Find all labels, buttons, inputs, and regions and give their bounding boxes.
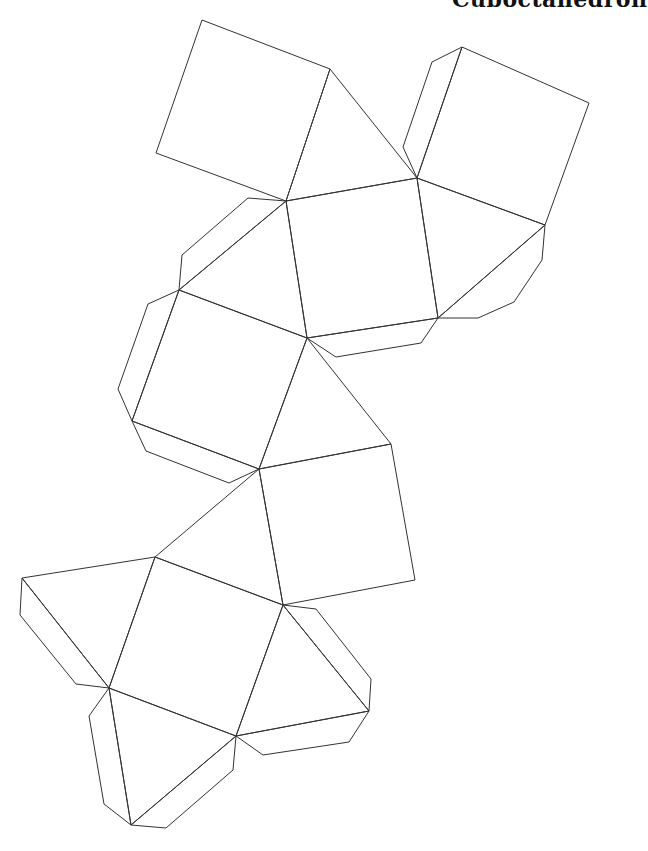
net-faces bbox=[22, 20, 589, 825]
triangle-face bbox=[236, 605, 369, 736]
square-face bbox=[132, 290, 307, 469]
square-face bbox=[286, 178, 438, 338]
glue-tab bbox=[89, 688, 131, 825]
square-face bbox=[259, 444, 415, 605]
triangle-face bbox=[259, 338, 391, 469]
glue-tab bbox=[307, 318, 438, 357]
square-face bbox=[417, 47, 589, 225]
triangle-face bbox=[155, 469, 283, 605]
glue-tab bbox=[236, 711, 369, 755]
square-face bbox=[156, 20, 330, 201]
triangle-face bbox=[417, 178, 545, 318]
triangle-face bbox=[109, 688, 236, 825]
glue-tab bbox=[118, 290, 179, 421]
glue-tab bbox=[132, 421, 259, 483]
square-face bbox=[109, 557, 283, 736]
glue-tabs bbox=[20, 47, 545, 828]
triangle-face bbox=[22, 557, 155, 688]
glue-tab bbox=[403, 47, 462, 178]
triangle-face bbox=[179, 201, 307, 338]
